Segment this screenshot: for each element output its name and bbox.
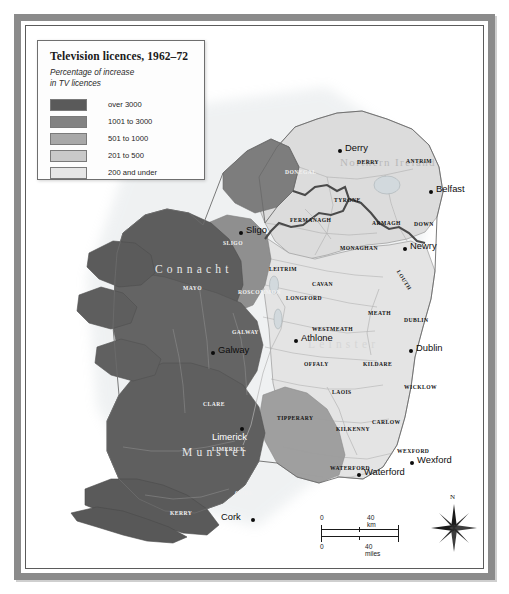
county-label-mayo: MAYO	[183, 285, 202, 291]
county-label-kilkenny: KILKENNY	[336, 426, 370, 432]
legend-row-201-500: 201 to 500	[50, 147, 194, 164]
scale-km-zero: 0	[320, 514, 324, 521]
city-label-dublin: Dublin	[416, 342, 443, 353]
city-dot-sligo	[239, 231, 243, 235]
city-label-sligo: Sligo	[246, 224, 267, 235]
legend-row-501-1000: 501 to 1000	[50, 130, 194, 147]
county-label-tyrone: TYRONE	[334, 197, 361, 203]
legend-label-over-3000: over 3000	[108, 100, 142, 109]
county-label-sligo: SLIGO	[223, 240, 243, 246]
county-label-tipperary: TIPPERARY	[277, 415, 313, 421]
legend-label-200-under: 200 and under	[108, 168, 157, 177]
county-label-offaly: OFFALY	[304, 361, 329, 367]
county-label-cavan: CAVAN	[312, 281, 333, 287]
province-label-connacht: Connacht	[155, 263, 233, 275]
county-label-leitrim: LEITRIM	[269, 266, 297, 272]
scale-miles-zero: 0	[320, 543, 324, 550]
legend-row-over-3000: over 3000	[50, 96, 194, 113]
compass-north-label: N	[450, 493, 455, 501]
legend-label-201-500: 201 to 500	[108, 151, 144, 160]
county-label-armagh: ARMAGH	[372, 220, 401, 226]
map-page: Connacht Leinster Munster Northern Irela…	[0, 0, 509, 594]
legend-title: Television licences, 1962–72	[50, 50, 194, 62]
county-label-laois: LAOIS	[332, 389, 352, 395]
county-label-longford: LONGFORD	[286, 295, 322, 301]
county-label-down: DOWN	[414, 221, 434, 227]
county-label-roscommon: ROSCOMMON	[238, 289, 281, 295]
county-label-carlow: CARLOW	[372, 419, 401, 425]
city-dot-athlone	[294, 339, 298, 343]
county-label-donegal: DONEGAL	[285, 169, 316, 175]
legend-label-1001-3000: 1001 to 3000	[108, 117, 152, 126]
city-dot-waterford	[357, 473, 361, 477]
city-dot-belfast	[429, 190, 433, 194]
legend-subtitle-line1: Percentage of increase	[50, 67, 194, 78]
city-dot-galway	[211, 351, 215, 355]
legend-swatch-201-500	[50, 150, 87, 162]
city-label-derry: Derry	[345, 142, 368, 153]
legend-subtitle-line2: in TV licences	[50, 78, 194, 89]
city-label-belfast: Belfast	[436, 183, 465, 194]
county-label-antrim: ANTRIM	[406, 158, 432, 164]
county-label-galway: GALWAY	[232, 329, 259, 335]
legend-swatch-over-3000	[50, 99, 87, 111]
compass-star-icon	[431, 504, 477, 552]
legend-row-200-under: 200 and under	[50, 164, 194, 181]
legend-swatch-200-under	[50, 167, 87, 179]
county-label-meath: MEATH	[368, 310, 391, 316]
legend-entries: over 3000 1001 to 3000 501 to 1000 201 t…	[50, 96, 194, 181]
county-label-clare: CLARE	[203, 401, 225, 407]
city-dot-limerick	[240, 427, 244, 431]
county-label-kildare: KILDARE	[363, 361, 392, 367]
city-label-newry: Newry	[410, 240, 437, 251]
city-dot-dublin	[409, 349, 413, 353]
scale-miles-value: 40 miles	[365, 543, 380, 557]
county-label-fermanagh: FERMANAGH	[290, 217, 331, 223]
legend-row-1001-3000: 1001 to 3000	[50, 113, 194, 130]
county-label-dublin: DUBLIN	[404, 317, 428, 323]
city-dot-wexford	[410, 461, 414, 465]
county-label-cork: CORK	[235, 490, 254, 496]
city-label-limerick: Limerick	[212, 431, 247, 442]
county-label-kerry: KERRY	[170, 510, 192, 516]
city-dot-newry	[403, 247, 407, 251]
city-dot-cork	[251, 518, 255, 522]
county-label-wicklow: WICKLOW	[404, 384, 437, 390]
scale-miles-rule	[321, 534, 399, 545]
county-label-limerick: LIMERICK	[212, 446, 245, 452]
city-dot-derry	[338, 149, 342, 153]
legend-swatch-1001-3000	[50, 116, 87, 128]
legend-label-501-1000: 501 to 1000	[108, 134, 148, 143]
city-label-wexford: Wexford	[417, 454, 452, 465]
city-label-waterford: Waterford	[364, 466, 405, 477]
county-label-monaghan: MONAGHAN	[340, 245, 378, 251]
city-label-athlone: Athlone	[301, 332, 333, 343]
legend-subtitle: Percentage of increase in TV licences	[50, 67, 194, 89]
compass-rose: N	[431, 493, 477, 553]
city-label-galway: Galway	[218, 344, 249, 355]
county-label-derry: DERRY	[357, 159, 379, 165]
legend-swatch-501-1000	[50, 133, 87, 145]
map-legend: Television licences, 1962–72 Percentage …	[37, 40, 205, 180]
city-label-cork: Cork	[221, 511, 241, 522]
